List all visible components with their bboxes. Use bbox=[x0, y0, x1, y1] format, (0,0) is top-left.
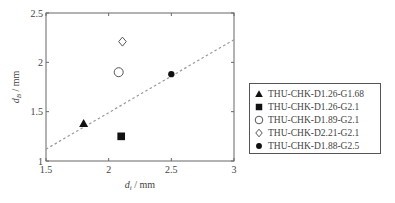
x-tick-label: 2.5 bbox=[165, 164, 178, 175]
plot-area bbox=[46, 13, 234, 161]
open-diamond-marker bbox=[256, 129, 262, 137]
legend-item: THU-CHK-D2.21-G2.1 bbox=[254, 126, 376, 139]
legend-label: THU-CHK-D1.26-G1.68 bbox=[268, 89, 364, 99]
open-circle-marker bbox=[114, 68, 123, 77]
legend-label: THU-CHK-D2.21-G2.1 bbox=[268, 128, 359, 138]
legend: THU-CHK-D1.26-G1.68THU-CHK-D1.26-G2.1THU… bbox=[249, 83, 381, 154]
circle-open-icon bbox=[254, 115, 264, 125]
triangle-marker bbox=[255, 90, 263, 97]
legend-item: THU-CHK-D1.88-G2.5 bbox=[254, 139, 376, 152]
y-tick-label: 1 bbox=[38, 156, 43, 167]
x-tick-label: 2 bbox=[106, 164, 111, 175]
diamond-open-icon bbox=[254, 128, 264, 138]
legend-label: THU-CHK-D1.26-G2.1 bbox=[268, 102, 359, 112]
legend-label: THU-CHK-D1.88-G2.5 bbox=[268, 141, 359, 151]
square-filled-icon bbox=[254, 102, 264, 112]
y-tick-label: 2 bbox=[38, 57, 43, 68]
square-marker bbox=[256, 103, 262, 109]
legend-label: THU-CHK-D1.89-G2.1 bbox=[268, 115, 359, 125]
filled-circle-marker bbox=[168, 71, 174, 77]
filled-circle-marker bbox=[256, 143, 262, 149]
x-tick-label: 3 bbox=[232, 164, 237, 175]
circle-filled-icon bbox=[254, 141, 264, 151]
y-axis-label: dB / mm bbox=[10, 70, 23, 103]
y-tick-label: 2.5 bbox=[31, 8, 44, 19]
triangle-filled-icon bbox=[254, 89, 264, 99]
y-tick-label: 1.5 bbox=[31, 106, 44, 117]
square-marker bbox=[117, 133, 125, 141]
legend-item: THU-CHK-D1.26-G2.1 bbox=[254, 100, 376, 113]
open-circle-marker bbox=[255, 116, 263, 124]
legend-item: THU-CHK-D1.26-G1.68 bbox=[254, 87, 376, 100]
x-axis-label: di / mm bbox=[125, 179, 156, 192]
legend-item: THU-CHK-D1.89-G2.1 bbox=[254, 113, 376, 126]
